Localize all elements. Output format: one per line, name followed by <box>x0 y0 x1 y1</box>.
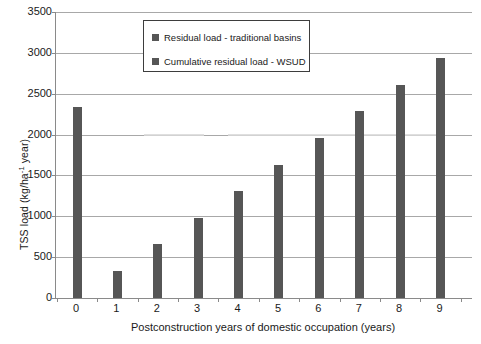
bar <box>315 138 324 298</box>
x-axis-tick-label: 0 <box>61 302 91 315</box>
bar <box>234 191 243 298</box>
x-axis-tick-label: 9 <box>424 302 454 315</box>
bar <box>153 244 162 298</box>
y-axis-tick-label: 2000 <box>8 129 52 140</box>
x-axis-title: Postconstruction years of domestic occup… <box>55 321 471 333</box>
x-axis-tick-label: 2 <box>142 302 172 315</box>
bar <box>274 165 283 298</box>
y-axis-tick-mark <box>52 12 56 13</box>
bar-chart: TSS load (kg/ha-1 year) 0500100015002000… <box>0 0 481 344</box>
x-axis-tick-label: 3 <box>182 302 212 315</box>
legend-swatch-icon <box>152 34 159 41</box>
y-axis-tick-label: 500 <box>8 251 52 262</box>
chart-legend: Residual load - traditional basins Cumul… <box>143 20 310 72</box>
y-axis-tick-mark <box>52 216 56 217</box>
gridline <box>56 175 472 176</box>
series-line-wsud <box>144 134 204 136</box>
legend-entry: Residual load - traditional basins <box>152 28 309 47</box>
x-axis-tick-labels: 0123456789 <box>55 302 471 318</box>
y-axis-tick-label: 0 <box>8 292 52 303</box>
bar <box>396 85 405 298</box>
y-axis-tick-mark <box>52 298 56 299</box>
gridline <box>56 12 472 13</box>
y-axis-tick-label: 3000 <box>8 47 52 58</box>
y-axis-tick-label: 1500 <box>8 169 52 180</box>
y-axis-tick-mark <box>52 94 56 95</box>
legend-entry-label: Residual load - traditional basins <box>164 32 301 43</box>
gridline <box>56 94 472 95</box>
y-axis-tick-labels: 0500100015002000250030003500 <box>8 12 52 298</box>
y-axis-tick-mark <box>52 175 56 176</box>
y-axis-tick-label: 3500 <box>8 6 52 17</box>
legend-entry-label: Cumulative residual load - WSUD <box>164 56 306 67</box>
gridline <box>56 257 472 258</box>
gridline <box>56 216 472 217</box>
x-axis-tick-label: 6 <box>303 302 333 315</box>
series-line-wsud <box>228 134 438 136</box>
y-axis-tick-mark <box>52 53 56 54</box>
bar <box>73 107 82 298</box>
x-axis-tick-label: 1 <box>101 302 131 315</box>
y-axis-tick-mark <box>52 135 56 136</box>
legend-swatch-icon <box>152 58 159 65</box>
y-axis-tick-mark <box>52 257 56 258</box>
x-axis-tick-label: 5 <box>263 302 293 315</box>
y-axis-tick-label: 1000 <box>8 210 52 221</box>
gridline <box>56 298 472 299</box>
bar <box>194 218 203 298</box>
x-axis-tick-label: 7 <box>344 302 374 315</box>
x-axis-tick-label: 4 <box>223 302 253 315</box>
bar <box>436 58 445 298</box>
bar <box>355 111 364 298</box>
legend-entry: Cumulative residual load - WSUD <box>152 52 309 71</box>
x-axis-tick-label: 8 <box>384 302 414 315</box>
bar <box>113 271 122 298</box>
y-axis-tick-label: 2500 <box>8 88 52 99</box>
